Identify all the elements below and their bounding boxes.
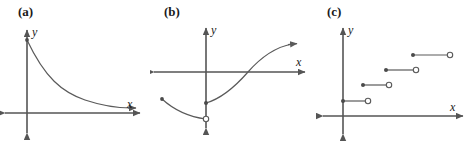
- panel-c-step-2-open-circle: [386, 82, 391, 87]
- panel-c-step-4: [411, 52, 453, 57]
- panel-c-step-4-open-circle: [447, 52, 452, 57]
- panel-b: (b) y x: [150, 0, 315, 144]
- panel-c-y-axis-label: y: [347, 23, 354, 37]
- panel-b-right-branch-end-arrow: [288, 44, 297, 45]
- panel-b-left-branch-open-circle: [203, 116, 208, 121]
- panel-a-x-axis-label: x: [126, 97, 133, 111]
- panel-b-right-branch: [206, 44, 292, 103]
- panel-c-x-axis-label: x: [449, 100, 456, 114]
- panel-c-step-3-open-circle: [413, 67, 418, 72]
- panel-c-step-1: [341, 98, 371, 103]
- panel-c-plot: y x: [315, 0, 473, 144]
- panel-a-y-axis-label: y: [31, 25, 38, 39]
- panel-b-left-branch-start-dot: [160, 97, 164, 101]
- panel-c: (c): [315, 0, 473, 144]
- panel-b-y-axis-label: y: [210, 23, 217, 37]
- panel-b-plot: y x: [150, 0, 315, 144]
- panel-a-curve-start-dot: [25, 38, 29, 42]
- panel-a-curve: [27, 40, 131, 108]
- panel-c-step-3-filled-dot: [384, 68, 388, 72]
- panel-c-step-2-filled-dot: [361, 83, 365, 87]
- panel-b-right-branch-filled-dot: [204, 101, 208, 105]
- panel-c-step-3: [384, 67, 419, 72]
- panel-a: (a) y x: [0, 0, 150, 144]
- figure-container: (a) y x (b): [0, 0, 473, 144]
- panel-c-step-2: [361, 82, 392, 87]
- panel-b-left-branch: [162, 99, 206, 119]
- panel-b-x-axis-label: x: [295, 55, 302, 69]
- panel-c-step-4-filled-dot: [411, 53, 415, 57]
- panel-a-plot: y x: [0, 0, 150, 144]
- panel-c-step-1-filled-dot: [341, 99, 345, 103]
- panel-c-step-1-open-circle: [365, 98, 370, 103]
